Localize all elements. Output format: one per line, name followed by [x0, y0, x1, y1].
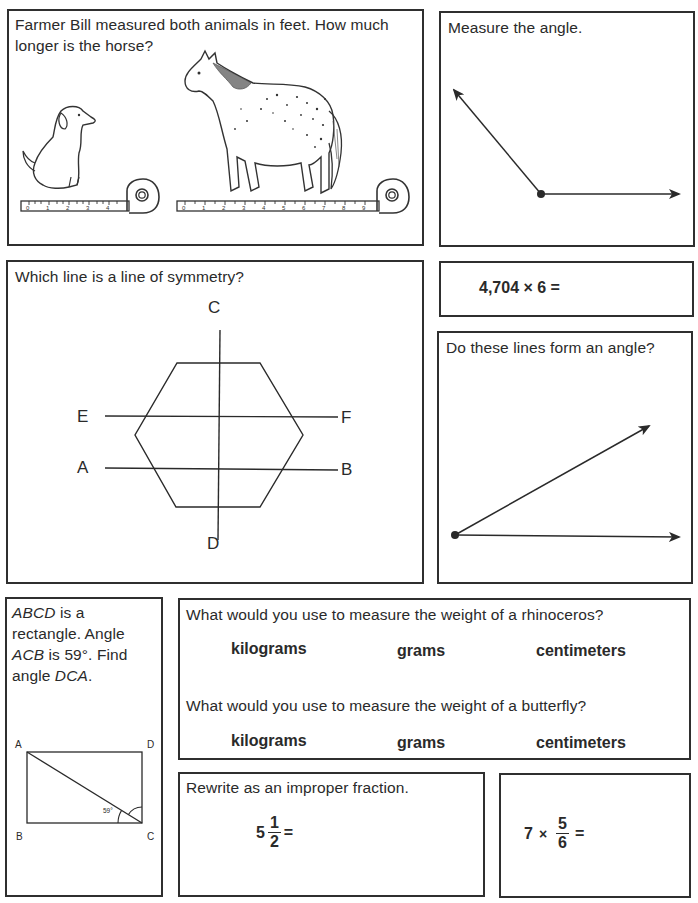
mixed-fraction: 1 2: [268, 814, 281, 851]
symmetry-label-c: C: [208, 298, 220, 318]
svg-text:1: 1: [202, 205, 206, 211]
svg-text:6: 6: [302, 205, 306, 211]
mixed-number-expression: 5 1 2 =: [256, 814, 293, 851]
horse-tape-measure: 01234 56789: [175, 173, 425, 215]
rhino-option-grams[interactable]: grams: [397, 642, 445, 660]
svg-text:2: 2: [222, 205, 226, 211]
rect-label-d: D: [147, 739, 154, 750]
lines-angle-box: Do these lines form an angle?: [437, 331, 693, 584]
rhino-option-kilograms[interactable]: kilograms: [231, 640, 307, 658]
butterfly-option-grams[interactable]: grams: [397, 734, 445, 752]
vertex-point: [537, 190, 545, 198]
mixed-whole: 5: [256, 824, 265, 842]
fm-denominator: 6: [558, 834, 567, 852]
svg-text:0: 0: [182, 205, 186, 211]
svg-text:3: 3: [86, 205, 90, 211]
rhino-option-centimeters[interactable]: centimeters: [536, 642, 626, 660]
mixed-equals: =: [284, 824, 293, 842]
svg-text:4: 4: [262, 205, 266, 211]
fm-times: ×: [539, 826, 547, 842]
improper-fraction-prompt: Rewrite as an improper fraction.: [186, 777, 409, 798]
fm-numerator: 5: [556, 815, 569, 834]
fraction-multiply-box: 7 × 5 6 =: [499, 773, 691, 898]
svg-text:8: 8: [342, 205, 346, 211]
lines-angle-diagram: [437, 331, 693, 584]
rect-label-b: B: [16, 831, 23, 842]
rect-label-a: A: [15, 739, 22, 750]
symmetry-label-e: E: [77, 407, 88, 427]
symmetry-box: Which line is a line of symmetry? C D E …: [6, 260, 424, 584]
fm-fraction: 5 6: [556, 815, 569, 852]
svg-text:1: 1: [46, 205, 50, 211]
symmetry-label-d: D: [207, 534, 219, 554]
rectangle-box: ABCD is a rectangle. Angle ACB is 59°. F…: [5, 597, 163, 897]
endpoint-dot: [451, 531, 459, 539]
svg-text:3: 3: [242, 205, 246, 211]
mixed-denominator: 2: [270, 833, 279, 851]
fm-whole: 7: [524, 825, 533, 843]
symmetry-label-b: B: [341, 460, 352, 480]
mixed-numerator: 1: [268, 814, 281, 833]
weight-units-box: What would you use to measure the weight…: [178, 598, 691, 760]
multiplication-expression: 4,704 × 6 =: [479, 279, 560, 297]
angle-diagram: [439, 11, 695, 247]
svg-text:9: 9: [362, 205, 366, 211]
svg-text:7: 7: [322, 205, 326, 211]
butterfly-option-kilograms[interactable]: kilograms: [231, 732, 307, 750]
rectangle-diagram: [5, 597, 163, 897]
svg-text:0: 0: [26, 205, 30, 211]
svg-text:2: 2: [66, 205, 70, 211]
measure-angle-box: Measure the angle.: [439, 11, 695, 247]
butterfly-option-centimeters[interactable]: centimeters: [536, 734, 626, 752]
symmetry-label-f: F: [341, 408, 351, 428]
svg-text:4: 4: [106, 205, 110, 211]
rect-angle-label: 59°: [103, 807, 113, 814]
rect-label-c: C: [147, 831, 154, 842]
svg-text:5: 5: [282, 205, 286, 211]
horse-problem-box: Farmer Bill measured both animals in fee…: [7, 9, 424, 246]
fraction-multiply-expression: 7 × 5 6 =: [524, 815, 584, 852]
dog-tape-measure: 01234: [19, 173, 169, 215]
improper-fraction-box: Rewrite as an improper fraction. 5 1 2 =: [178, 772, 485, 897]
multiplication-box: 4,704 × 6 =: [439, 261, 694, 317]
rhino-question: What would you use to measure the weight…: [186, 604, 604, 625]
butterfly-question: What would you use to measure the weight…: [186, 695, 586, 716]
symmetry-label-a: A: [77, 458, 88, 478]
fm-equals: =: [575, 825, 584, 843]
